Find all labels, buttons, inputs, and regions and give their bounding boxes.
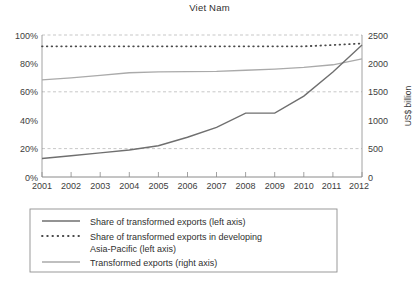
x-tick-2003: 2003 — [90, 181, 110, 191]
x-axis-ticks — [42, 172, 362, 177]
x-tick-2012: 2012 — [349, 181, 369, 191]
x-tick-2007: 2007 — [206, 181, 226, 191]
y2-axis-title: US$ billion — [403, 85, 413, 126]
x-tick-2001: 2001 — [32, 181, 52, 191]
y2-tick-1000: 1000 — [368, 116, 388, 126]
chart-container: Viet Nam — [0, 0, 419, 283]
x-tick-2008: 2008 — [236, 181, 256, 191]
x-tick-2002: 2002 — [61, 181, 81, 191]
x-tick-2011: 2011 — [322, 181, 341, 191]
y2-tick-2500: 2500 — [368, 31, 388, 41]
y-tick-60: 60% — [20, 87, 38, 97]
y2-tick-2000: 2000 — [368, 59, 388, 69]
x-tick-2004: 2004 — [119, 181, 139, 191]
y-axis-left-labels: 100% 80% 60% 40% 20% 0% — [15, 31, 38, 183]
series-line-transformed-exports — [42, 59, 362, 80]
y2-tick-1500: 1500 — [368, 87, 388, 97]
legend-label-exports: Transformed exports (right axis) — [90, 258, 217, 268]
legend-label-asia-pacific: Share of transformed exports in developi… — [90, 232, 262, 242]
x-tick-2006: 2006 — [177, 181, 197, 191]
y-tick-40: 40% — [20, 116, 38, 126]
legend-label-asia-pacific-line2: Asia-Pacific (left axis) — [90, 244, 176, 254]
x-tick-2009: 2009 — [265, 181, 285, 191]
chart-plot: 100% 80% 60% 40% 20% 0% 2500 2000 1500 1… — [0, 0, 419, 283]
y-tick-80: 80% — [20, 59, 38, 69]
x-tick-2010: 2010 — [294, 181, 314, 191]
x-tick-2005: 2005 — [148, 181, 168, 191]
axis-lines — [42, 35, 362, 177]
chart-legend: Share of transformed exports (left axis)… — [30, 209, 337, 272]
y-tick-20: 20% — [20, 144, 38, 154]
legend-label-share: Share of transformed exports (left axis) — [90, 217, 246, 227]
y-tick-100: 100% — [15, 31, 38, 41]
y2-tick-500: 500 — [368, 144, 383, 154]
series-line-asia-pacific-share — [42, 44, 362, 47]
y-axis-right-labels: 2500 2000 1500 1000 500 0 — [368, 31, 388, 183]
series-line-share-transformed-exports — [42, 45, 362, 159]
x-axis-labels: 2001 2002 2003 2004 2005 2006 2007 2008 … — [32, 181, 369, 191]
